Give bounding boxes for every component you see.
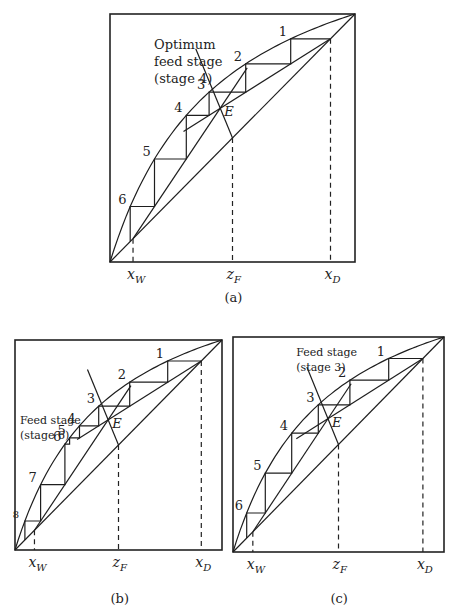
stage-label-6: 6 bbox=[118, 192, 126, 207]
stripping-operating-line bbox=[253, 384, 351, 532]
feed-stage-annotation: Optimum bbox=[154, 37, 215, 52]
xd-axis-label: xD bbox=[325, 266, 341, 285]
zf-axis-label: zF bbox=[226, 266, 242, 285]
xd-axis-label: xD bbox=[195, 554, 211, 573]
stage-label-1: 1 bbox=[377, 344, 385, 359]
stage-label-5: 5 bbox=[253, 458, 261, 473]
feed-stage-annotation: Feed stage bbox=[296, 346, 357, 359]
xd-axis-label: xD bbox=[417, 556, 433, 575]
panel-c: 123456ExWzFxDFeed stage(stage 3)(c) bbox=[233, 337, 444, 606]
stage-label-7: 7 bbox=[29, 470, 37, 485]
xw-axis-label: xW bbox=[247, 556, 266, 575]
panel-caption: (c) bbox=[331, 591, 348, 606]
feed-stage-annotation: (stage 4) bbox=[154, 71, 212, 86]
panel-caption: (a) bbox=[225, 290, 243, 305]
mccabe-thiele-figure: 123456ExWzFxDOptimumfeed stage(stage 4)(… bbox=[0, 0, 461, 612]
zf-axis-label: zF bbox=[112, 554, 128, 573]
stage-label-3: 3 bbox=[87, 391, 95, 406]
stage-label-4: 4 bbox=[280, 418, 288, 433]
panel-caption: (b) bbox=[111, 591, 129, 606]
stage-label-8: 8 bbox=[13, 509, 19, 520]
intersection-label: E bbox=[111, 416, 122, 431]
stage-label-3: 3 bbox=[306, 390, 314, 405]
xw-axis-label: xW bbox=[28, 554, 47, 573]
stage-label-6: 6 bbox=[235, 498, 243, 513]
zf-axis-label: zF bbox=[332, 556, 348, 575]
feed-stage-annotation: (stage 3) bbox=[296, 361, 345, 374]
panel-a: 123456ExWzFxDOptimumfeed stage(stage 4)(… bbox=[110, 14, 355, 305]
feed-stage-annotation: (stage 6) bbox=[20, 429, 69, 442]
rectifying-operating-line bbox=[77, 361, 201, 439]
stage-label-1: 1 bbox=[279, 24, 287, 39]
intersection-label: E bbox=[331, 415, 342, 430]
stage-label-1: 1 bbox=[156, 346, 164, 361]
stripping-operating-line bbox=[34, 386, 130, 531]
panel-b: 12345678ExWzFxDFeed stage(stage 6)(b) bbox=[13, 340, 222, 606]
feed-stage-annotation: Feed stage bbox=[20, 414, 81, 427]
xw-axis-label: xW bbox=[127, 266, 146, 285]
stage-label-4: 4 bbox=[174, 100, 182, 115]
q-line bbox=[87, 369, 118, 445]
stage-label-5: 5 bbox=[143, 144, 151, 159]
feed-stage-annotation: feed stage bbox=[154, 54, 223, 69]
intersection-label: E bbox=[223, 104, 234, 119]
stage-label-2: 2 bbox=[234, 49, 242, 64]
stage-label-2: 2 bbox=[118, 367, 126, 382]
